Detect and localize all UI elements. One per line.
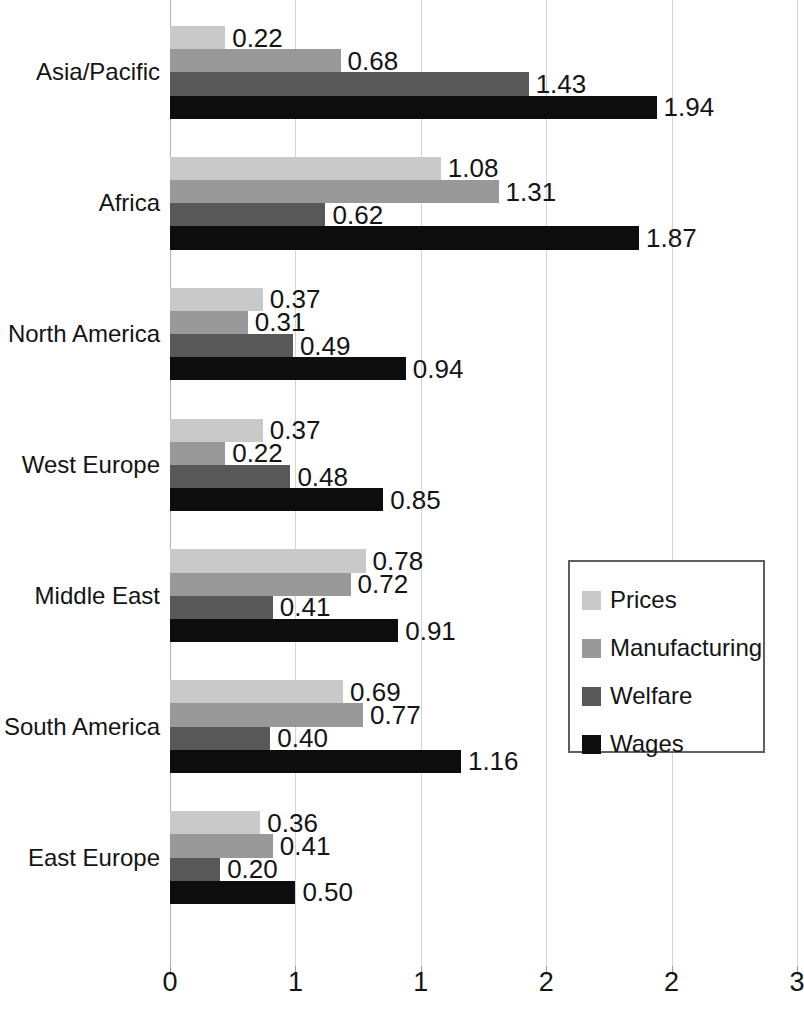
category-axis-label: Middle East <box>0 584 160 608</box>
bar-value-label: 0.62 <box>325 202 383 228</box>
bar-value-label: 0.20 <box>220 856 278 882</box>
bar-value-label: 0.68 <box>341 48 399 74</box>
bar-row: 0.62 <box>170 203 797 226</box>
bar-row: 1.08 <box>170 157 797 180</box>
category-axis-label: Africa <box>0 191 160 215</box>
bar-value-label: 0.31 <box>248 309 306 335</box>
legend-swatch-icon <box>582 687 601 706</box>
bar-value-label: 1.16 <box>461 748 519 774</box>
bar[interactable] <box>170 288 263 311</box>
legend-item[interactable]: Wages <box>582 720 763 768</box>
category-group: North America0.370.310.490.94 <box>170 288 797 381</box>
legend-item[interactable]: Welfare <box>582 672 763 720</box>
bar[interactable] <box>170 619 398 642</box>
legend-item[interactable]: Manufacturing <box>582 624 763 672</box>
bar[interactable] <box>170 549 366 572</box>
bar[interactable] <box>170 357 406 380</box>
bar-row: 1.87 <box>170 226 797 249</box>
legend-label: Prices <box>610 588 677 612</box>
bar-value-label: 0.40 <box>270 725 328 751</box>
bar-value-label: 1.31 <box>499 179 557 205</box>
legend-label: Wages <box>610 732 684 756</box>
category-axis-label: North America <box>0 322 160 346</box>
bar-value-label: 0.49 <box>293 333 351 359</box>
bar[interactable] <box>170 442 225 465</box>
bar-row: 0.49 <box>170 334 797 357</box>
category-group: Asia/Pacific0.220.681.431.94 <box>170 26 797 119</box>
legend-swatch-icon <box>582 591 601 610</box>
x-axis-tick-label: 2 <box>539 969 554 996</box>
bar[interactable] <box>170 49 341 72</box>
x-axis-tick-label: 2 <box>664 969 679 996</box>
bar-value-label: 0.41 <box>273 833 331 859</box>
bar-value-label: 0.41 <box>273 594 331 620</box>
bar-row: 1.31 <box>170 180 797 203</box>
bar[interactable] <box>170 311 248 334</box>
bar-row: 0.68 <box>170 49 797 72</box>
legend-swatch-icon <box>582 735 601 754</box>
bar[interactable] <box>170 203 325 226</box>
bar-value-label: 0.77 <box>363 702 421 728</box>
x-axis-tick-label: 1 <box>288 969 303 996</box>
x-axis-tick-label: 0 <box>162 969 177 996</box>
bar[interactable] <box>170 858 220 881</box>
bar-value-label: 0.22 <box>225 440 283 466</box>
bar-value-label: 0.94 <box>406 356 464 382</box>
bar-value-label: 0.91 <box>398 618 456 644</box>
bar[interactable] <box>170 96 657 119</box>
legend-swatch-icon <box>582 639 601 658</box>
bar-row: 0.31 <box>170 311 797 334</box>
bar-value-label: 1.94 <box>657 94 715 120</box>
bar[interactable] <box>170 334 293 357</box>
bar-value-label: 1.43 <box>529 71 587 97</box>
bar-row: 0.94 <box>170 357 797 380</box>
bar[interactable] <box>170 750 461 773</box>
bar-value-label: 0.85 <box>383 487 441 513</box>
x-axis-tick-label: 3 <box>789 969 804 996</box>
bar-row: 1.94 <box>170 96 797 119</box>
category-axis-label: East Europe <box>0 846 160 870</box>
category-group: East Europe0.360.410.200.50 <box>170 811 797 904</box>
bar-row: 0.85 <box>170 488 797 511</box>
bar-row: 0.22 <box>170 442 797 465</box>
category-axis-label: West Europe <box>0 453 160 477</box>
bar[interactable] <box>170 680 343 703</box>
category-group: Africa1.081.310.621.87 <box>170 157 797 250</box>
category-group: West Europe0.370.220.480.85 <box>170 419 797 512</box>
bar-value-label: 0.72 <box>351 571 409 597</box>
bar[interactable] <box>170 157 441 180</box>
bar[interactable] <box>170 226 639 249</box>
bar[interactable] <box>170 488 383 511</box>
bar[interactable] <box>170 26 225 49</box>
legend-item[interactable]: Prices <box>582 576 763 624</box>
bar-value-label: 1.87 <box>639 225 697 251</box>
bar-row: 0.20 <box>170 858 797 881</box>
bar-row: 0.22 <box>170 26 797 49</box>
bar-value-label: 0.48 <box>290 464 348 490</box>
gridline <box>797 0 798 966</box>
legend-label: Manufacturing <box>610 636 762 660</box>
bar-value-label: 0.50 <box>295 879 353 905</box>
bar[interactable] <box>170 72 529 95</box>
legend-label: Welfare <box>610 684 692 708</box>
category-axis-label: South America <box>0 715 160 739</box>
bar[interactable] <box>170 811 260 834</box>
bar[interactable] <box>170 881 295 904</box>
bar-chart: Asia/Pacific0.220.681.431.94Africa1.081.… <box>0 0 804 1013</box>
bar-row: 0.36 <box>170 811 797 834</box>
bar-value-label: 0.22 <box>225 25 283 51</box>
bar[interactable] <box>170 727 270 750</box>
bar[interactable] <box>170 596 273 619</box>
plot-area: Asia/Pacific0.220.681.431.94Africa1.081.… <box>170 0 797 966</box>
bar-row: 0.48 <box>170 465 797 488</box>
category-axis-label: Asia/Pacific <box>0 60 160 84</box>
bar-value-label: 1.08 <box>441 155 499 181</box>
bar[interactable] <box>170 465 290 488</box>
bar[interactable] <box>170 703 363 726</box>
x-axis-tick-label: 1 <box>413 969 428 996</box>
bar-row: 0.50 <box>170 881 797 904</box>
legend: PricesManufacturingWelfareWages <box>568 560 765 753</box>
